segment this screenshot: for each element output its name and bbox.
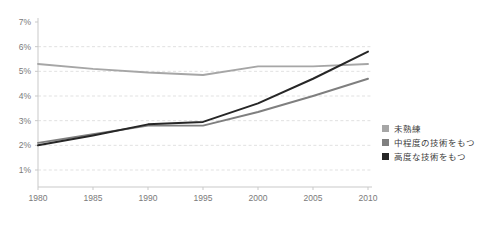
legend-item-unskilled[interactable]: 未熟練: [382, 122, 490, 135]
x-axis-tick-label: 2000: [249, 193, 268, 203]
x-axis-tick-label: 1985: [84, 193, 103, 203]
y-axis-tick-label: 3%: [19, 116, 32, 126]
series-line-0: [38, 64, 368, 75]
x-axis-tick-label: 1990: [139, 193, 158, 203]
chart-legend: 未熟練 中程度の技術をもつ 高度な技術をもつ: [382, 122, 490, 164]
legend-label-high-skilled: 高度な技術をもつ: [394, 151, 466, 163]
legend-item-high-skilled[interactable]: 高度な技術をもつ: [382, 150, 490, 163]
legend-swatch-high-skilled: [382, 153, 389, 160]
legend-swatch-unskilled: [382, 125, 389, 132]
chart-canvas: 1%2%3%4%5%6%7% 1980198519901995200020052…: [0, 0, 490, 231]
legend-label-medium-skilled: 中程度の技術をもつ: [394, 137, 475, 149]
x-axis-tick-label: 2005: [304, 193, 323, 203]
series-line-1: [38, 79, 368, 143]
y-axis-tick-label: 7%: [19, 17, 32, 27]
legend-label-unskilled: 未熟練: [394, 123, 421, 135]
data-series: [38, 52, 368, 146]
y-axis-tick-label: 6%: [19, 42, 32, 52]
x-axis-tick-label: 1995: [194, 193, 213, 203]
legend-swatch-medium-skilled: [382, 139, 389, 146]
y-axis-tick-labels: 1%2%3%4%5%6%7%: [19, 17, 32, 175]
line-chart: 1%2%3%4%5%6%7% 1980198519901995200020052…: [0, 0, 490, 231]
x-axis-tick-label: 1980: [29, 193, 48, 203]
y-axis-tick-label: 1%: [19, 165, 32, 175]
y-axis-tick-label: 5%: [19, 66, 32, 76]
legend-item-medium-skilled[interactable]: 中程度の技術をもつ: [382, 136, 490, 149]
y-axis-tick-label: 4%: [19, 91, 32, 101]
x-axis-tick-label: 2010: [359, 193, 378, 203]
axis-lines: [35, 18, 372, 190]
x-axis-tick-labels: 1980198519901995200020052010: [29, 193, 378, 203]
y-axis-tick-label: 2%: [19, 140, 32, 150]
